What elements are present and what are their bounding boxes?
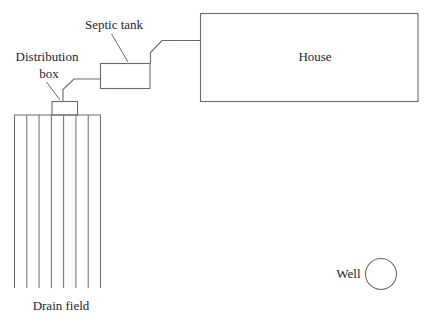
drain-field-label: Drain field (33, 298, 90, 313)
septic-system-diagram: House Septic tank Distribution box Drain… (0, 0, 430, 324)
house-label: House (298, 49, 331, 64)
pipe-house-to-septic-tank (151, 41, 201, 64)
drain-field-lines (15, 115, 101, 288)
septic-tank-leader-line (112, 34, 129, 62)
septic-tank-outline (101, 64, 151, 89)
distribution-box-label-line1: Distribution (16, 49, 79, 64)
distribution-box-leader-line (47, 82, 61, 100)
distribution-box-outline (52, 102, 78, 116)
well-label: Well (336, 266, 361, 281)
pipe-septic-tank-to-distribution-box (63, 79, 101, 102)
septic-tank-label: Septic tank (85, 17, 144, 32)
distribution-box-label-line2: box (39, 66, 59, 81)
well-circle (366, 259, 397, 290)
